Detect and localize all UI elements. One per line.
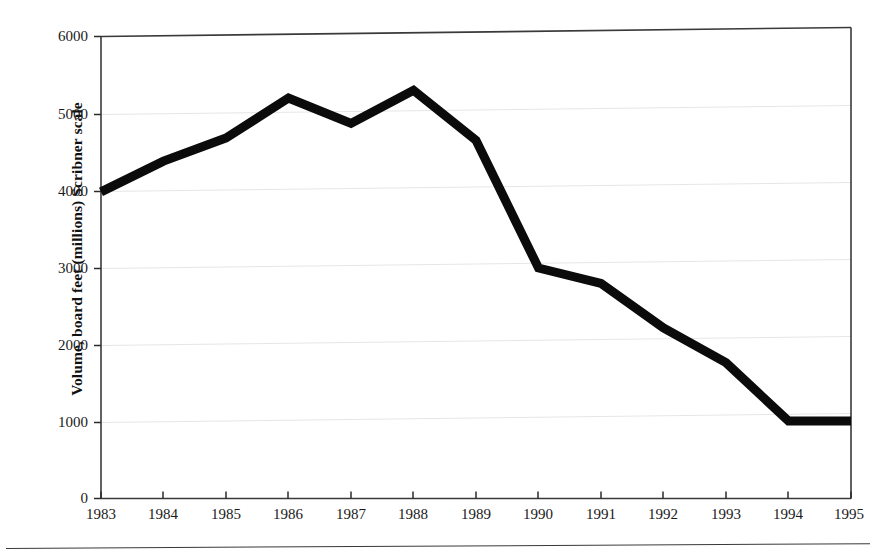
x-tick-label-1989: 1989	[441, 506, 511, 522]
x-tick-label-1987: 1987	[316, 506, 386, 522]
chart-figure: Volume, board feet (millions) Scribner s…	[0, 0, 876, 555]
x-tick-label-1995: 1995	[814, 506, 876, 522]
x-tick-label-1992: 1992	[628, 506, 698, 522]
x-tick-label-1994: 1994	[753, 506, 823, 522]
x-tick-label-1990: 1990	[503, 506, 573, 522]
x-tick-label-1991: 1991	[566, 506, 636, 522]
x-tick-label-1984: 1984	[128, 506, 198, 522]
x-tick-label-1993: 1993	[691, 506, 761, 522]
x-tick-label-1983: 1983	[66, 506, 136, 522]
x-tick-label-1986: 1986	[253, 506, 323, 522]
x-tick-label-1988: 1988	[378, 506, 448, 522]
x-axis-tick-labels: 1983 1984 1985 1986 1987 1988 1989 1990 …	[0, 0, 876, 555]
x-tick-label-1985: 1985	[191, 506, 261, 522]
